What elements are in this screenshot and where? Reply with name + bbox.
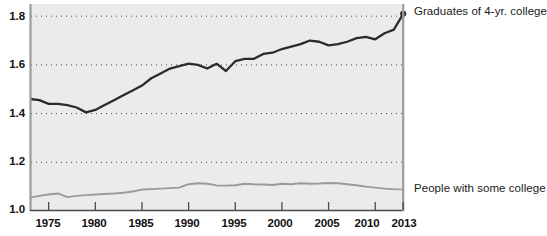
x-tick-label-1985: 1985	[119, 217, 163, 229]
plot-background	[30, 4, 404, 211]
x-tick-label-1975: 1975	[26, 217, 70, 229]
y-tick-label-1-8: 1.8	[0, 10, 25, 22]
x-tick-label-2005: 2005	[305, 217, 349, 229]
y-tick-label-1-0: 1.0	[0, 203, 25, 215]
x-tick-label-1990: 1990	[165, 217, 209, 229]
y-tick-label-1-6: 1.6	[0, 58, 25, 70]
x-tick-label-2000: 2000	[258, 217, 302, 229]
y-tick-label-1-2: 1.2	[0, 155, 25, 167]
series-label-some-college: People with some college	[414, 182, 546, 194]
y-tick-label-1-4: 1.4	[0, 107, 25, 119]
series-label-graduates: Graduates of 4-yr. college	[414, 5, 547, 17]
x-tick-label-1995: 1995	[212, 217, 256, 229]
x-tick-label-2013: 2013	[382, 217, 426, 229]
x-tick-label-1980: 1980	[72, 217, 116, 229]
